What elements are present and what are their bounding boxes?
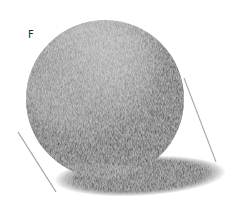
guide-line-right [184, 78, 216, 162]
sphere-sketch-graphic [0, 0, 240, 208]
sphere-drawing: F [0, 0, 240, 208]
figure-label: F [28, 30, 34, 40]
